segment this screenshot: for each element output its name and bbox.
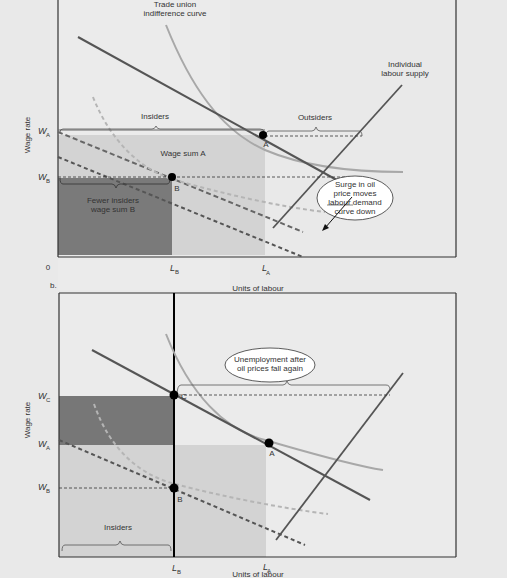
svg-text:B: B xyxy=(46,488,50,494)
point-b-label-b: B xyxy=(177,495,182,504)
wage-sum-b-area xyxy=(58,178,172,255)
point-c-label: C xyxy=(181,392,187,401)
point-a-b xyxy=(265,439,274,448)
tu-curve-label-2: indifference curve xyxy=(144,9,208,18)
x-axis-label-a: Units of labour xyxy=(232,284,284,293)
insiders-label-b: Insiders xyxy=(104,523,132,532)
point-b-label: B xyxy=(174,184,179,193)
w-a-label: WA xyxy=(38,126,50,138)
svg-text:A: A xyxy=(266,270,270,276)
fewer-insiders-label-2: wage sum B xyxy=(90,205,135,214)
svg-text:C: C xyxy=(46,397,51,403)
callout-a-line-4: curve down xyxy=(335,207,376,216)
callout-b-line-2: oil prices fall again xyxy=(237,364,303,373)
fewer-insiders-label-1: Fewer insiders xyxy=(87,196,139,205)
l-b-label-b: LB xyxy=(172,563,181,575)
insider-wage-area-b xyxy=(59,445,266,557)
callout-a-line-3: labour demand xyxy=(328,198,381,207)
w-b-label: WB xyxy=(38,172,50,184)
point-a-label-b: A xyxy=(269,449,275,458)
insiders-label-a: Insiders xyxy=(141,112,169,121)
svg-text:B: B xyxy=(177,569,181,575)
callout-a-line-1: Surge in oil xyxy=(335,180,375,189)
supply-label-1: Individual xyxy=(388,60,422,69)
point-c xyxy=(170,391,179,400)
panel-b-label: b. xyxy=(50,281,57,290)
wage-gain-area-c xyxy=(59,396,173,445)
wage-sum-a-label: Wage sum A xyxy=(160,149,206,158)
svg-text:A: A xyxy=(46,445,50,451)
w-a-label-b: WA xyxy=(38,439,50,451)
x-axis-label-b: Units of labour xyxy=(232,570,284,578)
outsiders-label: Outsiders xyxy=(298,113,332,122)
w-c-label: WC xyxy=(38,391,51,403)
svg-text:A: A xyxy=(46,132,50,138)
tu-curve-label-1: Trade union xyxy=(154,0,196,9)
origin-label: 0 xyxy=(46,263,51,272)
labour-market-diagram: Trade union indifference curve Individua… xyxy=(0,0,507,578)
y-axis-label-b: Wage rate xyxy=(23,401,32,438)
svg-text:B: B xyxy=(46,178,50,184)
supply-label-2: labour supply xyxy=(381,69,429,78)
y-axis-label-a: Wage rate xyxy=(23,116,32,153)
callout-a-line-2: price moves xyxy=(333,189,376,198)
point-a-label: A xyxy=(263,140,269,149)
point-a xyxy=(259,131,267,139)
point-b xyxy=(168,173,176,181)
w-b-label-b: WB xyxy=(38,482,50,494)
l-a-label: LA xyxy=(262,263,270,276)
l-b-label: LB xyxy=(170,263,179,275)
callout-b-line-1: Unemployment after xyxy=(234,355,306,364)
panel-b-chart xyxy=(59,293,456,558)
panel-a-chart xyxy=(58,0,456,257)
svg-text:B: B xyxy=(175,269,179,275)
point-b-b xyxy=(170,484,179,493)
